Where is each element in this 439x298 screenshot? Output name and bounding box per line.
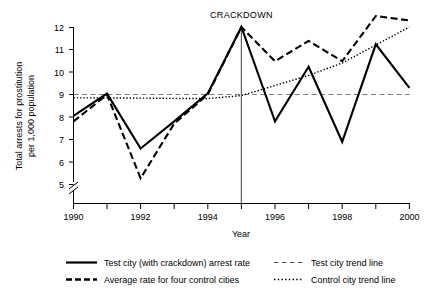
y-tick-label-10: 10 — [54, 68, 64, 78]
y-tick-label-7: 7 — [59, 135, 64, 145]
chart-legend: Test city (with crackdown) arrest rate A… — [66, 258, 396, 285]
x-tick-label-1992: 1992 — [131, 212, 151, 222]
y-tick-label-9: 9 — [59, 90, 64, 100]
legend-label-control-cities-average: Average rate for four control cities — [104, 275, 239, 285]
legend-label-control-city-trend-line: Control city trend line — [311, 275, 396, 285]
arrest-rate-line-chart: 12 11 10 9 8 7 6 5 1990 1992 1994 1996 1… — [0, 0, 439, 298]
crackdown-annotation-label: CRACKDOWN — [210, 10, 273, 20]
x-tick-label-1996: 1996 — [265, 212, 285, 222]
y-axis-ticks — [69, 28, 74, 185]
x-tick-label-1994: 1994 — [198, 212, 218, 222]
y-axis-title-line1: Total arrests for prostitution — [14, 62, 24, 171]
legend-label-test-city-trend-line: Test city trend line — [311, 258, 383, 268]
y-tick-label-12: 12 — [54, 23, 64, 33]
y-tick-label-8: 8 — [59, 113, 64, 123]
y-tick-label-5: 5 — [59, 180, 64, 190]
chart-figure: 12 11 10 9 8 7 6 5 1990 1992 1994 1996 1… — [0, 0, 439, 298]
y-tick-label-11: 11 — [55, 45, 64, 55]
x-axis-ticks — [74, 204, 410, 210]
legend-label-test-city-arrest-rate: Test city (with crackdown) arrest rate — [104, 258, 250, 268]
x-tick-label-1998: 1998 — [332, 212, 352, 222]
x-axis-title: Year — [232, 229, 250, 239]
y-axis-title-line2: per 1,000 population — [26, 75, 36, 157]
y-tick-label-6: 6 — [59, 158, 64, 168]
x-tick-label-2000: 2000 — [399, 212, 419, 222]
x-tick-label-1990: 1990 — [63, 212, 83, 222]
